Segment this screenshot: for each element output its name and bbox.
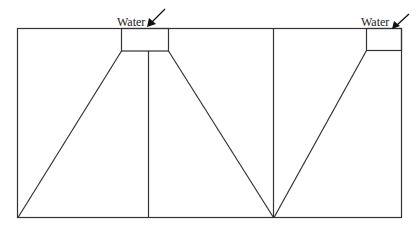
water-label-left: Water — [117, 16, 145, 28]
outer-frame — [18, 29, 402, 218]
water-box-right — [367, 29, 402, 51]
water-box-left — [122, 29, 169, 52]
arrow-icon-right — [392, 14, 409, 29]
diagonal-right — [274, 51, 367, 218]
diagonal-middle — [169, 51, 274, 218]
arrow-icon-left — [147, 9, 165, 27]
diagonal-left — [18, 51, 122, 218]
truss-diagram — [0, 0, 417, 228]
water-label-right: Water — [361, 16, 389, 28]
